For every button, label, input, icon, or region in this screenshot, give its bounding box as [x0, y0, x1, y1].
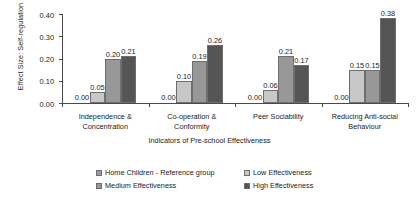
- legend-item[interactable]: Medium Effectiveness: [96, 181, 244, 190]
- chart-legend: Home Children - Reference groupLow Effec…: [96, 166, 346, 192]
- bar-group: 0.000.100.190.26: [161, 14, 223, 103]
- legend-swatch-icon: [244, 183, 250, 189]
- bar[interactable]: 0.19: [192, 61, 208, 103]
- bar[interactable]: 0.05: [90, 92, 106, 103]
- x-category-label: Reducing Anti-socialBehaviour: [310, 112, 419, 131]
- bar-value-label: 0.00: [161, 93, 175, 102]
- legend-item[interactable]: Low Effectiveness: [244, 168, 346, 177]
- bar-value-label: 0.21: [121, 47, 135, 56]
- bar-value-label: 0.17: [294, 56, 308, 65]
- chart-figure: Effect Size: Self-regulation 0.000.100.2…: [0, 0, 419, 208]
- bar-value-label: 0.00: [248, 93, 262, 102]
- bar[interactable]: 0.06: [263, 90, 279, 103]
- bar-value-label: 0.05: [90, 83, 104, 92]
- bar-value-label: 0.15: [365, 61, 379, 70]
- x-category-label-line: Reducing Anti-social: [310, 112, 419, 122]
- y-tick-mark: 0.10: [59, 81, 62, 82]
- legend-swatch-icon: [96, 170, 102, 176]
- y-tick-label: 0.30: [40, 32, 54, 41]
- y-tick-mark: 0.30: [59, 36, 62, 37]
- bar[interactable]: 0.15: [365, 70, 381, 103]
- x-tick-mark: [149, 103, 150, 107]
- bar-group: 0.000.060.210.17: [247, 14, 309, 103]
- x-category-label-line: Conformity: [137, 122, 248, 132]
- bar[interactable]: 0.38: [380, 18, 396, 103]
- legend-label: Medium Effectiveness: [105, 181, 176, 190]
- bar-value-label: 0.26: [208, 36, 222, 45]
- bar-value-label: 0.21: [279, 47, 293, 56]
- bar-value-label: 0.06: [263, 81, 277, 90]
- legend-label: Home Children - Reference group: [105, 168, 215, 177]
- bar-value-label: 0.20: [106, 50, 120, 59]
- bar-value-label: 0.00: [75, 93, 89, 102]
- bar[interactable]: 0.17: [294, 65, 310, 103]
- x-tick-mark: [235, 103, 236, 107]
- bar-value-label: 0.10: [177, 72, 191, 81]
- bar[interactable]: 0.26: [207, 45, 223, 103]
- bar-value-label: 0.15: [350, 61, 364, 70]
- y-axis-line: [62, 14, 63, 103]
- x-tick-mark: [408, 103, 409, 107]
- plot-area: 0.000.100.200.300.40 0.000.050.200.210.0…: [62, 14, 408, 103]
- bar-value-label: 0.00: [334, 93, 348, 102]
- bar-value-label: 0.38: [381, 9, 395, 18]
- y-tick-label: 0.10: [40, 77, 54, 86]
- bar-value-label: 0.19: [192, 52, 206, 61]
- y-tick-label: 0.40: [40, 10, 54, 19]
- legend-swatch-icon: [96, 183, 102, 189]
- legend-swatch-icon: [244, 170, 250, 176]
- y-tick-label: 0.00: [40, 99, 54, 108]
- bar-group: 0.000.050.200.21: [74, 14, 136, 103]
- legend-item[interactable]: Home Children - Reference group: [96, 168, 244, 177]
- bar[interactable]: 0.21: [121, 56, 137, 103]
- x-tick-mark: [322, 103, 323, 107]
- bar[interactable]: 0.21: [278, 56, 294, 103]
- bar[interactable]: 0.10: [176, 81, 192, 103]
- y-tick-mark: 0.20: [59, 59, 62, 60]
- y-tick-label: 0.20: [40, 55, 54, 64]
- bar-group: 0.000.150.150.38: [334, 14, 396, 103]
- x-category-label-line: Behaviour: [310, 122, 419, 132]
- x-tick-mark: [62, 103, 63, 107]
- x-axis-title: Indicators of Pre-school Effectiveness: [0, 136, 419, 145]
- y-tick-mark: 0.40: [59, 14, 62, 15]
- legend-label: High Effectiveness: [253, 181, 313, 190]
- bar[interactable]: 0.15: [349, 70, 365, 103]
- bar[interactable]: 0.20: [105, 59, 121, 104]
- y-axis-title: Effect Size: Self-regulation: [16, 0, 25, 102]
- legend-item[interactable]: High Effectiveness: [244, 181, 346, 190]
- legend-label: Low Effectiveness: [253, 168, 312, 177]
